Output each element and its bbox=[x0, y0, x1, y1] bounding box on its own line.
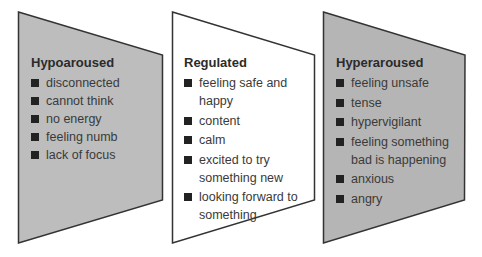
list-item: looking forward to something bbox=[184, 188, 308, 224]
list-item: no energy bbox=[31, 110, 159, 128]
regulated-title: Regulated bbox=[184, 55, 308, 71]
list-item: cannot think bbox=[31, 92, 159, 110]
hyperaroused-panel: Hyperaroused feeling unsafe tense hyperv… bbox=[336, 55, 462, 209]
square-bullet-icon bbox=[336, 118, 344, 126]
square-bullet-icon bbox=[336, 138, 344, 146]
list-item: feeling unsafe bbox=[336, 74, 462, 92]
list-item: angry bbox=[336, 190, 462, 208]
regulated-list: feeling safe and happy content calm exci… bbox=[184, 74, 308, 224]
square-bullet-icon bbox=[31, 151, 39, 159]
list-item: excited to try something new bbox=[184, 151, 308, 187]
list-item: calm bbox=[184, 131, 308, 149]
list-item: lack of focus bbox=[31, 146, 159, 164]
square-bullet-icon bbox=[336, 79, 344, 87]
square-bullet-icon bbox=[336, 195, 344, 203]
list-item: disconnected bbox=[31, 74, 159, 92]
square-bullet-icon bbox=[184, 193, 192, 201]
square-bullet-icon bbox=[31, 115, 39, 123]
hyperaroused-title: Hyperaroused bbox=[336, 55, 462, 71]
hypoaroused-title: Hypoaroused bbox=[31, 55, 159, 71]
list-item: feeling something bad is happening bbox=[336, 133, 462, 169]
square-bullet-icon bbox=[184, 156, 192, 164]
hyperaroused-list: feeling unsafe tense hypervigilant feeli… bbox=[336, 74, 462, 208]
hypoaroused-panel: Hypoaroused disconnected cannot think no… bbox=[31, 55, 159, 164]
list-item: feeling numb bbox=[31, 128, 159, 146]
list-item: feeling safe and happy bbox=[184, 74, 308, 110]
regulated-panel: Regulated feeling safe and happy content… bbox=[184, 55, 308, 226]
square-bullet-icon bbox=[184, 136, 192, 144]
list-item: tense bbox=[336, 94, 462, 112]
list-item: hypervigilant bbox=[336, 113, 462, 131]
list-item: content bbox=[184, 112, 308, 130]
square-bullet-icon bbox=[184, 117, 192, 125]
square-bullet-icon bbox=[184, 79, 192, 87]
square-bullet-icon bbox=[336, 175, 344, 183]
square-bullet-icon bbox=[31, 133, 39, 141]
square-bullet-icon bbox=[336, 99, 344, 107]
square-bullet-icon bbox=[31, 97, 39, 105]
hypoaroused-list: disconnected cannot think no energy feel… bbox=[31, 74, 159, 164]
square-bullet-icon bbox=[31, 79, 39, 87]
list-item: anxious bbox=[336, 170, 462, 188]
